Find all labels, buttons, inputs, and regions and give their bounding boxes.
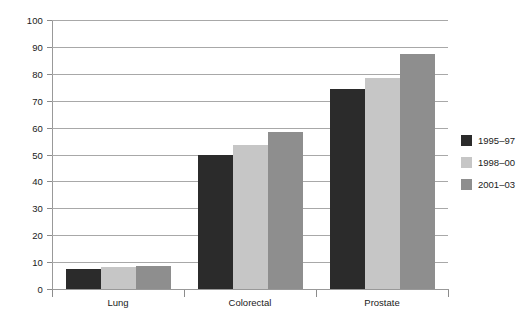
y-axis-label: 10 <box>32 257 43 268</box>
bar <box>101 267 136 289</box>
bar-chart: 0102030405060708090100 LungColorectalPro… <box>0 0 530 329</box>
bar <box>365 78 400 289</box>
category-label: Prostate <box>364 297 399 308</box>
y-axis-label: 0 <box>38 284 43 295</box>
y-axis-label: 70 <box>32 95 43 106</box>
y-axis-tick <box>47 128 52 129</box>
x-axis-line <box>52 289 449 290</box>
y-axis-label: 50 <box>32 149 43 160</box>
bar <box>233 145 268 289</box>
x-axis-end-tick <box>448 290 449 297</box>
y-axis-tick <box>47 74 52 75</box>
bar <box>198 155 233 289</box>
y-axis-label: 40 <box>32 176 43 187</box>
legend-label: 1995–97 <box>478 135 515 146</box>
y-axis-tick <box>47 20 52 21</box>
y-axis-label: 60 <box>32 122 43 133</box>
y-axis-tick <box>47 262 52 263</box>
bar <box>330 89 365 289</box>
bar <box>400 54 435 289</box>
y-axis-tick <box>47 47 52 48</box>
category-label: Lung <box>107 297 128 308</box>
category-separator-tick <box>184 290 185 297</box>
y-axis-label: 30 <box>32 203 43 214</box>
bar <box>66 269 101 289</box>
category-label: Colorectal <box>229 297 272 308</box>
y-axis-tick <box>47 235 52 236</box>
bar-group <box>198 20 303 289</box>
bar-group <box>330 20 435 289</box>
chart-legend: 1995–971998–002001–03 <box>461 129 515 195</box>
y-axis-label: 100 <box>27 15 43 26</box>
bar <box>136 266 171 289</box>
bar <box>268 132 303 289</box>
legend-swatch-icon <box>461 135 472 146</box>
legend-swatch-icon <box>461 179 472 190</box>
y-axis-label: 20 <box>32 230 43 241</box>
legend-label: 2001–03 <box>478 179 515 190</box>
legend-label: 1998–00 <box>478 157 515 168</box>
plot-area: 0102030405060708090100 <box>52 20 448 289</box>
bar-group <box>66 20 171 289</box>
y-axis-tick <box>47 181 52 182</box>
legend-item[interactable]: 1995–97 <box>461 129 515 151</box>
legend-item[interactable]: 1998–00 <box>461 151 515 173</box>
legend-swatch-icon <box>461 157 472 168</box>
category-separator-tick <box>316 290 317 297</box>
y-axis-tick <box>47 155 52 156</box>
x-axis-start-tick <box>52 290 53 297</box>
y-axis-label: 90 <box>32 41 43 52</box>
y-axis-label: 80 <box>32 68 43 79</box>
y-axis-tick <box>47 101 52 102</box>
legend-item[interactable]: 2001–03 <box>461 173 515 195</box>
y-axis-tick <box>47 208 52 209</box>
